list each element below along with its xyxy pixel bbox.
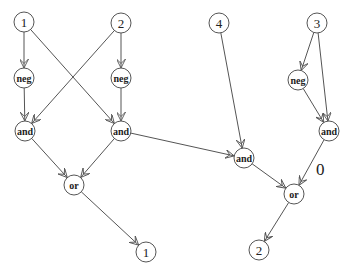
node-op-orR: or	[284, 184, 304, 204]
circuit-diagram: 1243negnegnegandandandandoror12 0	[0, 0, 353, 275]
node-label: 3	[314, 16, 321, 31]
node-input-in2: 2	[111, 13, 131, 33]
edge-orL-to-out1	[81, 192, 138, 245]
node-label: or	[289, 189, 299, 200]
node-label: and	[236, 153, 253, 164]
edge-negL-to-andL	[24, 88, 25, 121]
node-output-out1: 1	[136, 242, 156, 262]
edge-andM-to-andC	[131, 133, 234, 156]
edge-andM-to-orL	[81, 139, 115, 178]
node-label: neg	[291, 75, 306, 86]
node-label: 4	[216, 16, 223, 31]
edge-in1-to-andM	[31, 30, 115, 124]
node-label: and	[17, 126, 34, 137]
node-op-andR: and	[319, 121, 339, 141]
node-op-andC: and	[234, 148, 254, 168]
node-op-negL: neg	[14, 68, 34, 88]
edge-negR-to-andR	[303, 89, 324, 123]
edge-andL-to-orL	[32, 138, 68, 177]
node-label: neg	[17, 73, 32, 84]
edge-orR-to-out2	[264, 203, 288, 242]
node-output-out2: 2	[249, 240, 269, 260]
node-label: and	[321, 126, 338, 137]
node-op-orL: or	[64, 175, 84, 195]
node-label: neg	[114, 73, 129, 84]
node-op-andM: and	[111, 121, 131, 141]
edge-label: 0	[316, 160, 325, 179]
node-label: 2	[118, 16, 125, 31]
node-label: and	[113, 126, 130, 137]
node-input-in1: 1	[14, 12, 34, 32]
edge-andC-to-orR	[252, 164, 286, 188]
edge-in3-to-andR	[318, 33, 328, 121]
node-op-andL: and	[15, 121, 35, 141]
node-label: 1	[143, 245, 150, 260]
node-label: or	[69, 180, 79, 191]
node-op-negM: neg	[111, 68, 131, 88]
edge-in4-to-andC	[221, 33, 242, 148]
node-input-in3: 3	[307, 13, 327, 33]
edge-in3-to-negR	[301, 33, 314, 71]
diagram-canvas: 1243negnegnegandandandandoror12 0	[0, 0, 353, 275]
node-input-in4: 4	[209, 13, 229, 33]
edge-labels-layer: 0	[316, 160, 325, 179]
node-label: 1	[21, 15, 28, 30]
edges-layer	[24, 30, 328, 246]
node-label: 2	[256, 243, 263, 258]
nodes-layer: 1243negnegnegandandandandoror12	[14, 12, 339, 262]
node-op-negR: neg	[288, 70, 308, 90]
